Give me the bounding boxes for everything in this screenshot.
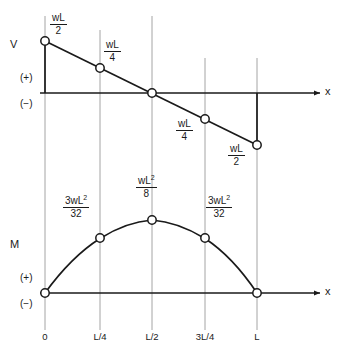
x-tick-label-0: 0	[35, 332, 55, 342]
moment-baseline-axis	[40, 291, 320, 296]
diagram-canvas	[0, 0, 339, 350]
shear-negative-mark: (−)	[20, 99, 33, 109]
x-tick-label-l2: L/2	[137, 332, 167, 342]
shear-positive-mark: (+)	[20, 73, 33, 83]
moment-point-l2	[148, 216, 156, 224]
moment-axis-label: M	[10, 239, 19, 250]
shear-point-0	[41, 37, 49, 45]
shear-label-l: wL 2	[228, 144, 245, 167]
moment-point-0	[41, 289, 49, 297]
shear-point-3l4	[201, 115, 209, 123]
shear-label-0: wL 2	[50, 13, 67, 36]
moment-point-l4	[96, 234, 104, 242]
shear-point-l2	[148, 89, 156, 97]
moment-label-l2-numerator: wL2	[136, 176, 157, 188]
shear-label-l4: wL 4	[104, 40, 121, 63]
moment-label-l4-numerator: 3wL2	[63, 196, 89, 208]
shear-axis-label: V	[10, 39, 17, 50]
x-tick-label-l: L	[247, 332, 267, 342]
x-tick-label-3l4: 3L/4	[188, 332, 222, 342]
moment-positive-mark: (+)	[20, 273, 33, 283]
moment-label-l4: 3wL2 32	[63, 196, 89, 219]
moment-point-l	[253, 289, 261, 297]
moment-point-3l4	[201, 234, 209, 242]
shear-point-l4	[96, 64, 104, 72]
moment-label-3l4-numerator: 3wL2	[206, 196, 232, 208]
moment-label-3l4: 3wL2 32	[206, 196, 232, 219]
shear-label-3l4: wL 4	[176, 119, 193, 142]
shear-axis-arrow-label: x	[325, 86, 331, 97]
x-tick-label-l4: L/4	[85, 332, 115, 342]
moment-curve	[45, 220, 257, 293]
moment-axis-arrow-label: x	[325, 286, 331, 297]
moment-negative-mark: (−)	[20, 299, 33, 309]
shear-baseline-axis	[40, 91, 320, 96]
moment-label-l2: wL2 8	[136, 176, 157, 199]
beam-shear-moment-diagram: V x (+) (−) wL 2 wL 4 wL 4 wL 2 M x (+) …	[0, 0, 339, 350]
shear-point-l	[253, 141, 261, 149]
